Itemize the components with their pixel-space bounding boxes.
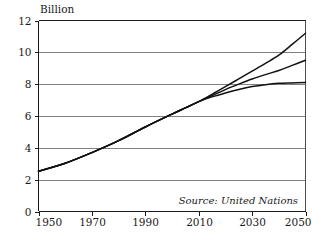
y-tick-label-0: 0 [25, 206, 32, 218]
x-tick-label-2050: 2050 [285, 216, 312, 228]
y-tick-label-10: 10 [18, 46, 31, 58]
source-annotation: Source: United Nations [179, 195, 298, 206]
x-tick-label-2010: 2010 [186, 216, 213, 228]
y-tick-label-8: 8 [25, 78, 32, 90]
x-tick-label-1990: 1990 [132, 216, 159, 228]
x-tick-label-2030: 2030 [239, 216, 266, 228]
chart-background [0, 0, 324, 245]
y-axis-unit-label: Billion [40, 3, 74, 15]
x-tick-label-1950: 1950 [36, 216, 63, 228]
population-projection-chart: Billion 024681012 1950197019902010203020… [0, 0, 324, 245]
y-tick-label-12: 12 [18, 15, 31, 27]
chart-canvas: Billion 024681012 1950197019902010203020… [0, 0, 324, 245]
y-tick-label-2: 2 [25, 174, 32, 186]
y-tick-label-4: 4 [25, 142, 32, 154]
x-tick-label-1970: 1970 [79, 216, 106, 228]
y-tick-label-6: 6 [25, 110, 32, 122]
